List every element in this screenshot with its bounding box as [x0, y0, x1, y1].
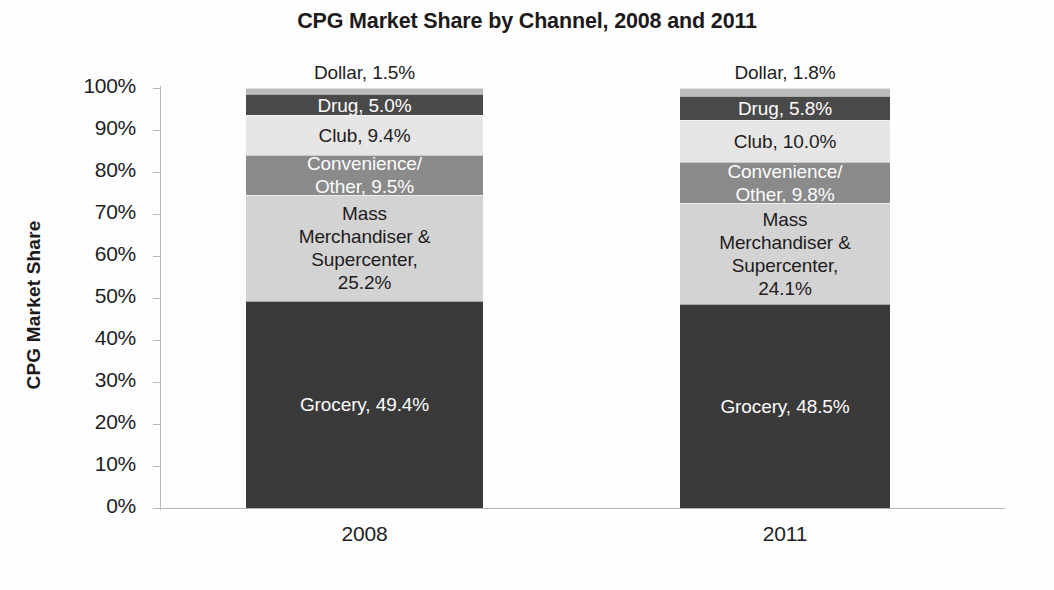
bar-segment[interactable]: Club, 10.0% — [680, 120, 890, 162]
x-axis-line — [160, 508, 1005, 509]
bar-segment[interactable]: Drug, 5.0% — [246, 94, 483, 115]
bar-segment[interactable]: Club, 9.4% — [246, 115, 483, 154]
y-axis-tick-label: 60% — [16, 242, 136, 266]
bar-segment[interactable]: Grocery, 48.5% — [680, 304, 890, 508]
y-axis-tick-mark — [153, 508, 161, 509]
y-axis-tick-label: 10% — [16, 452, 136, 476]
y-axis-tick-label: 90% — [16, 116, 136, 140]
bar-segment[interactable]: Convenience/ Other, 9.8% — [680, 162, 890, 203]
stacked-bar[interactable]: Dollar, 1.8%Drug, 5.8%Club, 10.0%Conveni… — [680, 88, 890, 508]
bar-segment-label: Club, 9.4% — [315, 124, 415, 147]
y-axis-tick-label: 40% — [16, 326, 136, 350]
bar-segment-label: Convenience/ Other, 9.8% — [724, 160, 847, 206]
chart-figure: CPG Market Share by Channel, 2008 and 20… — [0, 0, 1054, 590]
bar-segment-label: Convenience/ Other, 9.5% — [303, 152, 426, 198]
bar-segment-label: Drug, 5.8% — [734, 97, 836, 120]
bar-segment-label: Mass Merchandiser & Supercenter, 24.1% — [715, 208, 855, 300]
bar-segment-label: Grocery, 49.4% — [296, 393, 433, 416]
bar-segment-outside-label: Dollar, 1.5% — [314, 61, 415, 84]
y-axis-tick-label: 20% — [16, 410, 136, 434]
bar-segment-label: Club, 10.0% — [730, 130, 840, 153]
y-axis-tick-label: 80% — [16, 158, 136, 182]
bar-segment[interactable]: Grocery, 49.4% — [246, 301, 483, 508]
y-axis-tick-label: 50% — [16, 284, 136, 308]
y-axis-tick-label: 30% — [16, 368, 136, 392]
bar-segment[interactable]: Drug, 5.8% — [680, 96, 890, 120]
bar-segment[interactable]: Mass Merchandiser & Supercenter, 25.2% — [246, 195, 483, 301]
category-axis-label: 2011 — [680, 522, 890, 546]
chart-title: CPG Market Share by Channel, 2008 and 20… — [0, 9, 1054, 34]
y-axis-tick-label: 0% — [16, 494, 136, 518]
bar-segment[interactable]: Mass Merchandiser & Supercenter, 24.1% — [680, 203, 890, 304]
bar-segment[interactable]: Convenience/ Other, 9.5% — [246, 155, 483, 195]
bar-segment-label: Grocery, 48.5% — [716, 395, 853, 418]
bar-segment-outside-label: Dollar, 1.8% — [734, 61, 835, 84]
bar-segment-label: Drug, 5.0% — [313, 94, 415, 117]
plot-area: Dollar, 1.5%Drug, 5.0%Club, 9.4%Convenie… — [160, 88, 1005, 508]
stacked-bar[interactable]: Dollar, 1.5%Drug, 5.0%Club, 9.4%Convenie… — [246, 88, 483, 508]
bar-segment-label: Mass Merchandiser & Supercenter, 25.2% — [295, 202, 435, 294]
y-axis-tick-label: 70% — [16, 200, 136, 224]
y-axis-tick-label: 100% — [16, 74, 136, 98]
bar-segment[interactable]: Dollar, 1.8% — [680, 88, 890, 96]
category-axis-label: 2008 — [246, 522, 483, 546]
